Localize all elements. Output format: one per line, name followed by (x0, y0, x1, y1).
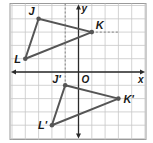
x-axis-label: x (137, 74, 144, 85)
vertex-point (23, 56, 28, 61)
vertex-point (50, 123, 55, 128)
vertex-point (63, 83, 68, 88)
vertex-label-l: L (14, 53, 21, 65)
vertex-label-k-prime: K' (123, 93, 134, 105)
vertex-label-j-prime: J' (52, 73, 61, 85)
vertex-point (36, 17, 41, 22)
coordinate-plane-diagram: yxOJKLJ'K'L' (0, 0, 153, 143)
coordinate-plane: yxOJKLJ'K'L' (0, 0, 153, 143)
vertex-label-l-prime: L' (38, 119, 48, 131)
vertex-label-j: J (29, 5, 36, 17)
origin-label: O (82, 74, 90, 85)
vertex-point (90, 30, 95, 35)
vertex-label-k: K (96, 19, 105, 31)
y-axis-label: y (81, 3, 88, 14)
vertex-point (116, 96, 121, 101)
